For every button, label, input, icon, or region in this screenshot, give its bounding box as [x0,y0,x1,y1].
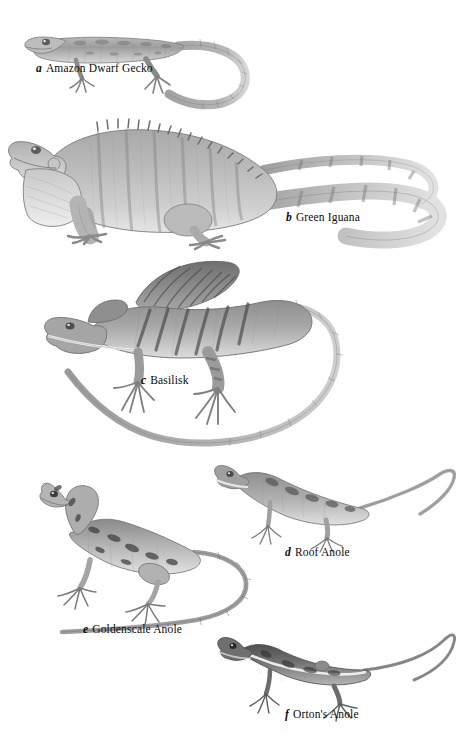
figure-letter-e: e [83,623,92,635]
goldenscale-anole-eye [50,491,58,498]
figure-letter-d: d [285,546,295,558]
species-name-e: Goldenscale Anole [92,623,182,635]
ortons-anole-shoulder [315,661,329,671]
basilisk-drawing [40,252,360,452]
gecko-eye [42,39,50,45]
goldenscale-anole-front-foot [58,588,96,609]
caption-green-iguana: bGreen Iguana [286,211,360,224]
ortons-anole-eye [229,643,236,649]
figure-letter-c: c [141,374,150,386]
species-name-c: Basilisk [150,374,188,386]
basilisk-dorsal-crest [136,261,239,310]
ortons-anole-front-foot [250,694,279,713]
figure-letter-f: f [285,708,293,720]
iguana-thigh [164,204,212,236]
species-name-f: Orton's Anole [293,708,359,720]
illustration-plate: aAmazon Dwarf Gecko [0,0,456,743]
species-name-b: Green Iguana [296,211,360,223]
figure-goldenscale-anole [28,478,268,638]
caption-ortons-anole: fOrton's Anole [285,708,359,721]
basilisk-eye [66,322,75,329]
figure-green-iguana [2,108,454,243]
figure-letter-b: b [286,211,296,223]
figure-basilisk [40,252,360,452]
caption-amazon-dwarf-gecko: aAmazon Dwarf Gecko [36,62,153,75]
caption-roof-anole: dRoof Anole [285,546,350,559]
gecko-front-foot [70,78,94,92]
goldenscale-anole-drawing [28,478,268,638]
iguana-eye [31,146,41,154]
caption-goldenscale-anole: eGoldenscale Anole [83,623,182,636]
species-name-a: Amazon Dwarf Gecko [46,62,153,74]
roof-anole-eye [226,471,233,477]
caption-basilisk: cBasilisk [141,374,189,387]
figure-letter-a: a [36,62,46,74]
species-name-d: Roof Anole [295,546,350,558]
goldenscale-anole-hind-foot [126,604,165,625]
green-iguana-drawing [2,108,454,243]
iguana-front-foot [68,234,106,244]
basilisk-hind-foot [194,388,235,424]
